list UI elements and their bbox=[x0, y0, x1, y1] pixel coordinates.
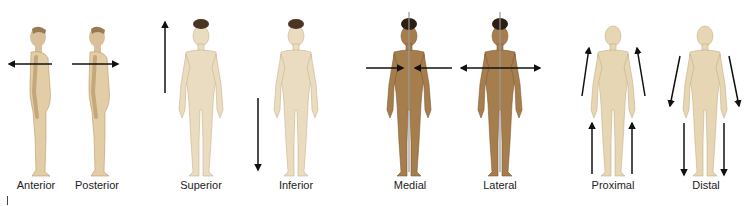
figure-posterior bbox=[89, 27, 110, 176]
label-posterior: Posterior bbox=[75, 179, 119, 191]
label-proximal: Proximal bbox=[592, 179, 635, 191]
label-lateral: Lateral bbox=[483, 179, 517, 191]
figure-anterior bbox=[30, 27, 51, 176]
label-medial: Medial bbox=[394, 179, 426, 191]
label-superior: Superior bbox=[180, 179, 222, 191]
text-cursor bbox=[7, 196, 8, 205]
label-distal: Distal bbox=[692, 179, 720, 191]
arrow-distal-arm-left-icon bbox=[670, 56, 680, 106]
hair-icon bbox=[193, 19, 209, 29]
figure-proximal bbox=[591, 26, 635, 176]
anatomy-diagram bbox=[0, 0, 745, 206]
arrow-distal-arm-right-icon bbox=[729, 56, 739, 106]
label-inferior: Inferior bbox=[279, 179, 313, 191]
label-anterior: Anterior bbox=[17, 179, 56, 191]
hair-icon bbox=[288, 19, 304, 29]
figure-inferior bbox=[274, 26, 318, 176]
arrow-proximal-arm-left-icon bbox=[582, 48, 589, 96]
arrow-proximal-arm-right-icon bbox=[637, 48, 645, 96]
figure-superior bbox=[179, 26, 223, 176]
figure-distal bbox=[683, 26, 727, 176]
